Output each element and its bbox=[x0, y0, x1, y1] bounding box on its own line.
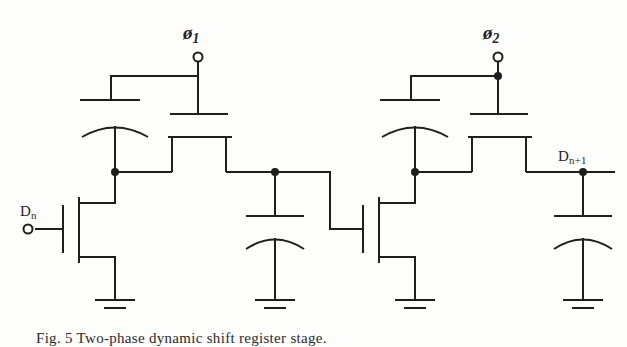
driver2-drain-stub bbox=[379, 172, 415, 203]
driver1-drain-stub bbox=[79, 172, 115, 203]
figure-root: ø1 ø2 Dn Dn+1 Fig. 5 Two-phase dynamic s… bbox=[0, 0, 627, 347]
load1-gate-wire bbox=[111, 76, 198, 100]
input-terminal-circle[interactable] bbox=[24, 225, 33, 234]
circuit-schematic bbox=[0, 0, 627, 347]
data-in-symbol: D bbox=[20, 203, 31, 219]
data-out-label: Dn+1 bbox=[558, 148, 587, 166]
data-in-label: Dn bbox=[20, 203, 37, 221]
phi2-subscript: 2 bbox=[493, 31, 500, 46]
figure-caption: Fig. 5 Two-phase dynamic shift register … bbox=[36, 330, 327, 347]
driver2-source-stub bbox=[379, 257, 415, 300]
phi1-subscript: 1 bbox=[193, 31, 200, 46]
phi1-terminal-circle[interactable] bbox=[194, 53, 203, 62]
phi2-label: ø2 bbox=[483, 22, 500, 47]
data-out-symbol: D bbox=[558, 148, 569, 164]
phi2-symbol: ø bbox=[483, 22, 493, 43]
phi2-terminal-circle[interactable] bbox=[494, 53, 503, 62]
interstage-wire bbox=[275, 172, 363, 229]
data-in-subscript: n bbox=[31, 209, 37, 221]
phi1-label: ø1 bbox=[183, 22, 200, 47]
driver1-source-stub bbox=[79, 257, 115, 300]
data-out-subscript: n+1 bbox=[569, 154, 587, 166]
load2-gate-wire bbox=[411, 76, 498, 100]
phi1-symbol: ø bbox=[183, 22, 193, 43]
